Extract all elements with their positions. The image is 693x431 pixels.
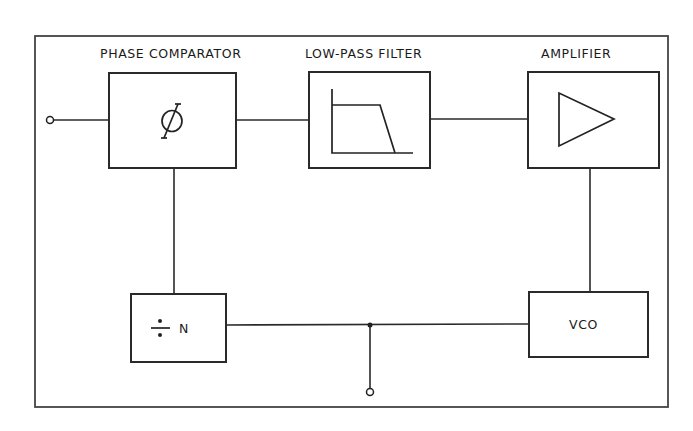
pll-block-diagram: PHASE COMPARATOR LOW-PASS FILTER AMPLIFI… — [0, 0, 693, 431]
input-terminal — [47, 117, 54, 124]
vco-block: VCO — [529, 292, 648, 357]
low-pass-filter-block — [309, 72, 430, 168]
phase-comparator-block — [109, 73, 236, 168]
wire-vco-to-divider — [226, 324, 529, 325]
amplifier-box — [528, 72, 659, 168]
label-phase-comparator: PHASE COMPARATOR — [100, 46, 241, 61]
vco-label: VCO — [569, 317, 598, 332]
label-amplifier: AMPLIFIER — [541, 46, 611, 61]
junction-dot — [368, 323, 373, 328]
output-terminal — [367, 389, 374, 396]
divider-n-label: N — [179, 321, 189, 336]
divider-block: N — [131, 294, 226, 362]
phase-comparator-box — [109, 73, 236, 168]
amplifier-block — [528, 72, 659, 168]
label-low-pass-filter: LOW-PASS FILTER — [305, 46, 422, 61]
